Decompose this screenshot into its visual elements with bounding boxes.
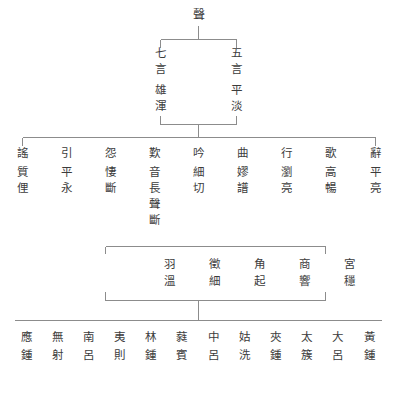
- node-level1-0-char-2: 雄: [155, 84, 166, 97]
- node-level2-7: 歌 高 暢: [320, 147, 341, 195]
- node-level3-4-char-0: 宮: [344, 258, 355, 271]
- node-level4-1-char-1: 射: [52, 349, 63, 362]
- node-level2-1-char-1: 平: [61, 166, 72, 179]
- node-level3-1: 徵 細: [204, 258, 225, 288]
- node-level4-1-char-0: 無: [52, 331, 63, 344]
- node-level3-3-char-1: 響: [299, 275, 310, 288]
- node-level1-1-char-0: 五: [231, 47, 242, 60]
- node-level2-5-char-0: 曲: [237, 147, 248, 160]
- node-level4-9-char-0: 太: [301, 331, 312, 344]
- node-level2-2: 怨 悽 斷: [100, 147, 121, 195]
- node-level2-4-char-2: 切: [193, 182, 204, 195]
- node-level4-4-char-0: 林: [145, 331, 156, 344]
- node-level4-11-char-1: 鍾: [364, 349, 375, 362]
- node-level2-3-char-1: 音: [149, 166, 160, 179]
- node-level2-3-char-4: 斷: [149, 214, 160, 227]
- node-level1-1: 五 言 平 淡: [226, 47, 247, 113]
- node-level2-3-char-2: 長: [149, 182, 160, 195]
- node-level4-3-char-1: 則: [114, 349, 125, 362]
- node-level2-4: 吟 細 切: [188, 147, 209, 195]
- node-level4-10-char-0: 大: [332, 331, 343, 344]
- node-level4-0-char-0: 應: [21, 331, 32, 344]
- node-level2-7-char-0: 歌: [325, 147, 336, 160]
- node-level4-8-char-0: 夾: [270, 331, 281, 344]
- node-level2-5-char-2: 譜: [237, 182, 248, 195]
- node-level4-5-char-0: 蕤: [176, 331, 187, 344]
- node-level4-9-char-1: 簇: [301, 349, 312, 362]
- node-level3-2-char-1: 起: [254, 275, 265, 288]
- node-level2-2-char-1: 悽: [105, 166, 116, 179]
- node-level4-0-char-1: 鍾: [21, 349, 32, 362]
- node-level2-6-char-2: 亮: [281, 182, 292, 195]
- node-level1-0-char-0: 七: [155, 47, 166, 60]
- node-level2-5-char-1: 嫪: [237, 166, 248, 179]
- node-level2-2-char-2: 斷: [105, 182, 116, 195]
- node-level1-1-char-3: 淡: [231, 100, 242, 113]
- node-level4-5: 蕤 賓: [171, 331, 192, 362]
- node-level3-0: 羽 溫: [159, 258, 180, 288]
- diagram-root: 聲 七 言 雄 渾 五 言 平 淡 謠 質 俚 引 平 永 怨 悽 斷 歎 音 …: [0, 0, 396, 393]
- node-level2-7-char-2: 暢: [325, 182, 336, 195]
- node-level2-1-char-2: 永: [61, 182, 72, 195]
- node-level4-6: 中 呂: [203, 331, 224, 362]
- node-level1-0: 七 言 雄 渾: [150, 47, 171, 113]
- node-level4-3: 夷 則: [109, 331, 130, 362]
- node-level2-1: 引 平 永: [56, 147, 77, 195]
- node-level3-2: 角 起: [249, 258, 270, 288]
- node-level4-4: 林 鍾: [140, 331, 161, 362]
- node-level4-3-char-0: 夷: [114, 331, 125, 344]
- node-level3-0-char-0: 羽: [164, 258, 175, 271]
- node-level1-0-char-1: 言: [155, 63, 166, 76]
- node-level3-1-char-1: 細: [209, 275, 220, 288]
- node-level2-0-char-1: 質: [17, 166, 28, 179]
- node-level2-8-char-0: 辭: [370, 147, 381, 160]
- node-level2-3: 歎 音 長 聲 斷: [144, 147, 165, 227]
- node-level2-1-char-0: 引: [61, 147, 72, 160]
- node-level4-5-char-1: 賓: [176, 349, 187, 362]
- node-level2-6-char-1: 瀏: [281, 166, 292, 179]
- node-level2-8: 辭 平 亮: [365, 147, 386, 195]
- node-level4-7: 姑 洗: [234, 331, 255, 362]
- node-level1-0-char-3: 渾: [155, 100, 166, 113]
- node-level4-2-char-1: 呂: [83, 349, 94, 362]
- node-level4-2-char-0: 南: [83, 331, 94, 344]
- node-level2-3-char-0: 歎: [149, 147, 160, 160]
- node-level4-1: 無 射: [47, 331, 68, 362]
- node-root-char-0: 聲: [193, 9, 205, 22]
- node-level4-11-char-0: 黃: [364, 331, 375, 344]
- node-level2-7-char-1: 高: [325, 166, 336, 179]
- node-level1-1-char-2: 平: [231, 84, 242, 97]
- node-level2-4-char-0: 吟: [193, 147, 204, 160]
- node-level4-10-char-1: 呂: [332, 349, 343, 362]
- node-level4-7-char-1: 洗: [239, 349, 250, 362]
- node-level3-4: 宮 穩: [339, 258, 360, 288]
- node-level2-3-char-3: 聲: [149, 198, 160, 211]
- node-level2-0: 謠 質 俚: [12, 147, 33, 195]
- node-level2-8-char-1: 平: [370, 166, 381, 179]
- node-level4-11: 黃 鍾: [359, 331, 380, 362]
- node-level3-2-char-0: 角: [254, 258, 265, 271]
- node-level3-3-char-0: 商: [299, 258, 310, 271]
- node-level3-1-char-0: 徵: [209, 258, 220, 271]
- node-level4-9: 太 簇: [296, 331, 317, 362]
- node-level2-4-char-1: 細: [193, 166, 204, 179]
- node-level2-5: 曲 嫪 譜: [232, 147, 253, 195]
- node-level3-0-char-1: 溫: [164, 275, 175, 288]
- node-level4-7-char-0: 姑: [239, 331, 250, 344]
- node-level4-2: 南 呂: [78, 331, 99, 362]
- node-level2-0-char-2: 俚: [17, 182, 28, 195]
- node-level4-0: 應 鍾: [16, 331, 37, 362]
- node-level2-8-char-2: 亮: [370, 182, 381, 195]
- node-level4-8-char-1: 鍾: [270, 349, 281, 362]
- node-level2-6: 行 瀏 亮: [276, 147, 297, 195]
- node-level4-6-char-1: 呂: [208, 349, 219, 362]
- node-level2-2-char-0: 怨: [105, 147, 116, 160]
- node-level3-3: 商 響: [294, 258, 315, 288]
- node-level4-6-char-0: 中: [208, 331, 219, 344]
- node-level1-1-char-1: 言: [231, 63, 242, 76]
- node-level4-8: 夾 鍾: [265, 331, 286, 362]
- node-level4-10: 大 呂: [327, 331, 348, 362]
- node-level2-6-char-0: 行: [281, 147, 292, 160]
- node-root: 聲: [188, 9, 209, 22]
- node-level4-4-char-1: 鍾: [145, 349, 156, 362]
